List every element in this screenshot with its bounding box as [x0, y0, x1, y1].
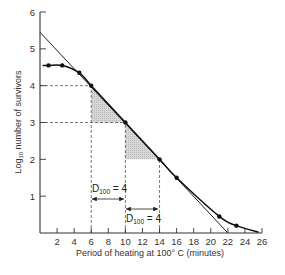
survivor-curve	[43, 65, 259, 232]
y-axis-title: Log10 number of survivors	[13, 70, 24, 174]
x-tick-label: 24	[240, 236, 251, 247]
data-point	[46, 63, 50, 67]
d100-annotation-2: D100 = 4	[126, 209, 161, 225]
x-tick-label: 22	[223, 236, 234, 247]
data-point	[89, 83, 93, 87]
data-point	[60, 63, 64, 67]
data-point	[123, 120, 127, 124]
svg-text:D100 = 4: D100 = 4	[126, 213, 161, 225]
data-point	[157, 157, 161, 161]
data-point	[217, 214, 221, 218]
x-tick-label: 18	[188, 236, 199, 247]
x-tick-label: 4	[72, 236, 77, 247]
y-tick-label: 2	[30, 154, 35, 165]
y-tick-label: 4	[30, 80, 35, 91]
data-point	[77, 71, 81, 75]
data-point	[174, 176, 178, 180]
x-axis-ticks: 2468101214161820222426	[54, 228, 267, 247]
data-point	[234, 223, 238, 227]
x-tick-label: 10	[120, 236, 131, 247]
x-tick-label: 20	[205, 236, 216, 247]
x-tick-label: 16	[171, 236, 182, 247]
x-tick-label: 12	[137, 236, 148, 247]
y-tick-label: 6	[30, 7, 35, 18]
survivor-curve-chart: 2468101214161820222426 123456 D100 = 4 D…	[0, 0, 285, 275]
x-tick-label: 2	[54, 236, 59, 247]
x-axis-title: Period of heating at 100° C (minutes)	[76, 248, 224, 258]
x-tick-label: 14	[154, 236, 165, 247]
x-tick-label: 6	[89, 236, 94, 247]
x-tick-label: 26	[257, 236, 268, 247]
d100-annotation-1: D100 = 4	[92, 183, 127, 199]
x-tick-label: 8	[106, 236, 111, 247]
svg-text:D100 = 4: D100 = 4	[92, 183, 127, 195]
y-tick-label: 5	[30, 43, 35, 54]
y-tick-label: 3	[30, 117, 35, 128]
y-tick-label: 1	[30, 191, 35, 202]
axes	[40, 12, 262, 233]
